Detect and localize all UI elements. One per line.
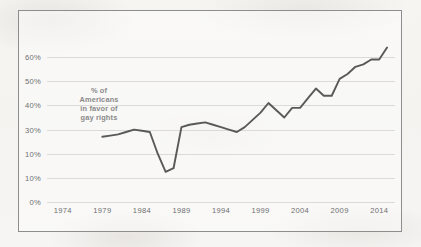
x-axis-tick-label: 1989 [172,206,190,215]
x-axis-tick-label: 1974 [54,206,72,215]
y-axis-tick-label: 40% [25,101,41,110]
x-axis-tick-labels: 197419791984198919941999200420092014 [47,206,395,222]
x-axis-tick-label: 2014 [370,206,388,215]
gridline [47,202,395,203]
x-axis-tick-label: 2004 [291,206,309,215]
y-axis-tick-label: 0% [30,198,41,207]
series-annotation-label: % ofAmericansin favor ofgay rights [64,86,134,122]
y-axis-tick-label: 10% [25,149,41,158]
y-axis-tick-label: 30% [25,125,41,134]
x-axis-tick-label: 2009 [331,206,349,215]
series-polyline [102,47,387,171]
x-axis-tick-label: 1979 [93,206,111,215]
x-axis-tick-label: 1984 [133,206,151,215]
chart-figure: 60%50%40%30%10%10%0% % ofAmericansin fav… [0,0,421,247]
y-axis-tick-label: 50% [25,77,41,86]
y-axis-tick-labels: 60%50%40%30%10%10%0% [0,33,41,202]
y-axis-tick-label: 60% [25,53,41,62]
x-axis-tick-label: 1994 [212,206,230,215]
annotation-line-2: Americans [64,95,134,104]
annotation-line-4: gay rights [64,113,134,122]
annotation-line-1: % of [64,86,134,95]
x-axis-tick-label: 1999 [251,206,269,215]
annotation-line-3: in favor of [64,104,134,113]
y-axis-tick-label: 10% [25,173,41,182]
